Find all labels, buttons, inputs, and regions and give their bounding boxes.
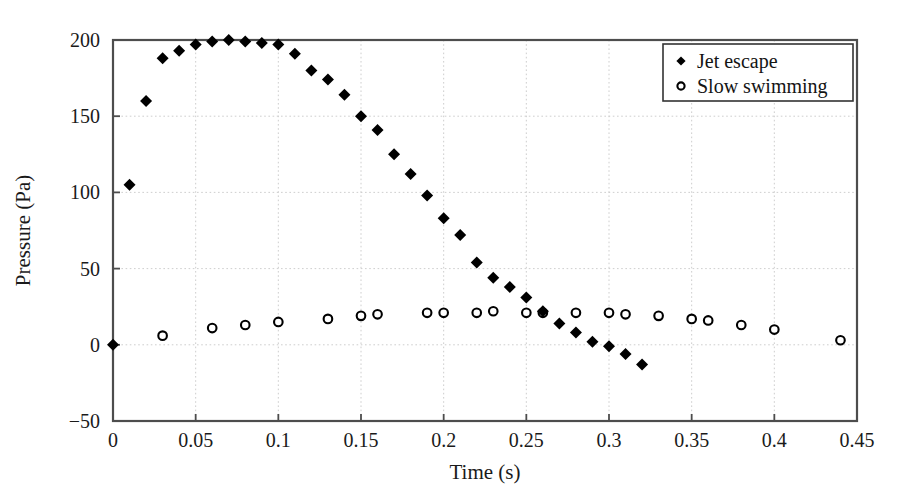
data-point [636,359,648,371]
data-point [504,281,516,293]
data-point [206,36,218,48]
data-point [241,321,250,330]
data-point [322,74,334,86]
y-tick-label: 200 [70,29,100,51]
data-point [324,315,333,324]
y-tick-label: 100 [70,181,100,203]
data-point [438,212,450,224]
series-slow-swimming-points [158,307,844,345]
data-point [274,318,283,327]
data-point [553,317,565,329]
data-point [373,310,382,319]
x-axis-title: Time (s) [450,460,521,484]
data-point [570,327,582,339]
data-point [158,331,167,340]
data-point [586,336,598,348]
data-point [338,89,350,101]
x-tick-label: 0.15 [344,429,379,451]
data-point [239,36,251,48]
y-axis-title: Pressure (Pa) [11,175,35,286]
data-point [572,308,581,317]
data-point [388,148,400,160]
x-tick-label: 0.35 [674,429,709,451]
x-tick-label: 0.2 [431,429,456,451]
data-point [770,325,779,334]
x-tick-label: 0.4 [762,429,787,451]
data-point [522,308,531,317]
data-point [208,324,217,333]
data-point [836,336,845,345]
data-point [654,312,663,321]
data-point [355,110,367,122]
x-tick-label: 0.1 [266,429,291,451]
y-tick-label: −50 [69,410,100,432]
data-point [124,179,136,191]
legend-marker-icon [677,82,684,89]
x-tick-label: 0.25 [509,429,544,451]
data-point [454,229,466,241]
x-axis-tick-labels: 00.050.10.150.20.250.30.350.40.45 [108,429,875,451]
data-point [157,52,169,64]
data-point [423,308,432,317]
legend-label: Jet escape [697,50,778,73]
data-point [621,310,630,319]
y-tick-label: 150 [70,105,100,127]
y-axis-tick-labels: 200150100500−50 [69,29,100,432]
data-point [173,45,185,57]
data-point [487,272,499,284]
data-point [140,95,152,107]
x-tick-label: 0 [108,429,118,451]
series-jet-escape-points [107,34,648,371]
data-point [107,339,119,351]
data-point [687,315,696,324]
legend-label: Slow swimming [697,75,828,98]
data-point [421,189,433,201]
x-tick-label: 0.3 [597,429,622,451]
data-point [372,124,384,136]
data-point [620,348,632,360]
data-point [605,308,614,317]
data-point [256,37,268,49]
data-point [489,307,498,316]
data-point [471,257,483,269]
y-tick-label: 0 [90,334,100,356]
data-point [603,340,615,352]
y-tick-label: 50 [80,258,100,280]
x-tick-label: 0.05 [178,429,213,451]
data-point [520,292,532,304]
chart-legend: Jet escapeSlow swimming [663,44,853,101]
data-point [289,48,301,60]
x-tick-label: 0.45 [840,429,875,451]
data-point [223,34,235,46]
pressure-time-scatter-chart: 00.050.10.150.20.250.30.350.40.45 200150… [0,0,904,497]
data-point [704,316,713,325]
data-point [357,312,366,321]
data-point [472,308,481,317]
data-point [305,64,317,76]
data-point [405,168,417,180]
data-point [439,308,448,317]
data-point [737,321,746,330]
